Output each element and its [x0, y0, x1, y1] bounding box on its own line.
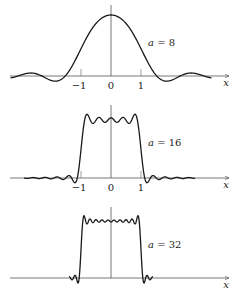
- panel-a8: −1 0 1 x a = 8: [10, 5, 229, 91]
- panel-a32: x a = 32: [10, 207, 229, 290]
- tick-label-1: 1: [138, 182, 144, 193]
- annotation-a32: a = 32: [148, 239, 181, 250]
- curve-a16: [24, 114, 195, 182]
- figure: −1 0 1 x a = 8 −1 0 1 x a = 16 x a = 32: [0, 0, 236, 298]
- annotation-a8: a = 8: [148, 37, 175, 48]
- tick-label-minus-1: −1: [72, 182, 87, 193]
- x-axis-label: x: [223, 279, 229, 290]
- tick-label-1: 1: [138, 80, 144, 91]
- panel-a16: −1 0 1 x a = 16: [10, 105, 229, 193]
- tick-label-minus-1: −1: [72, 80, 87, 91]
- annotation-a16: a = 16: [148, 137, 181, 148]
- tick-label-0: 0: [108, 182, 114, 193]
- tick-label-0: 0: [108, 80, 114, 91]
- x-axis-label: x: [223, 179, 229, 190]
- x-axis-label: x: [223, 77, 229, 88]
